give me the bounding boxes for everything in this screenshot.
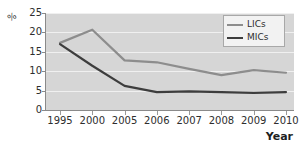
y-tick-label: 25	[18, 8, 42, 18]
x-tick-mark	[189, 111, 190, 115]
legend-item-mics[interactable]: MICs	[227, 31, 281, 44]
y-tick-mark	[42, 110, 46, 111]
y-tick-label: 15	[18, 47, 42, 57]
y-tick-label: 5	[18, 86, 42, 96]
y-tick-mark	[42, 13, 46, 14]
y-tick-mark	[42, 71, 46, 72]
y-tick-label: 20	[18, 27, 42, 37]
y-tick-mark	[42, 32, 46, 33]
x-axis-line	[45, 110, 294, 111]
x-tick-mark	[286, 111, 287, 115]
x-axis-title: Year	[266, 130, 293, 143]
y-tick-mark	[42, 91, 46, 92]
line-chart-figure: % 0510152025 199520002005200620072008200…	[0, 0, 301, 147]
y-tick-mark	[42, 52, 46, 53]
legend-label: LICs	[247, 19, 266, 30]
y-tick-label: 10	[18, 66, 42, 76]
legend-item-lics[interactable]: LICs	[227, 18, 281, 31]
series-line-mics	[60, 44, 286, 93]
x-axis-tick-labels: 19952000200520062007200820092010	[0, 114, 301, 130]
x-tick-mark	[254, 111, 255, 115]
x-tick-mark	[221, 111, 222, 115]
chart-legend: LICsMICs	[223, 15, 285, 47]
x-tick-mark	[125, 111, 126, 115]
legend-label: MICs	[247, 32, 268, 43]
x-tick-mark	[92, 111, 93, 115]
legend-swatch-icon	[227, 37, 243, 39]
x-tick-mark	[60, 111, 61, 115]
x-tick-mark	[157, 111, 158, 115]
legend-swatch-icon	[227, 24, 243, 26]
x-tick-label: 2010	[265, 114, 301, 128]
